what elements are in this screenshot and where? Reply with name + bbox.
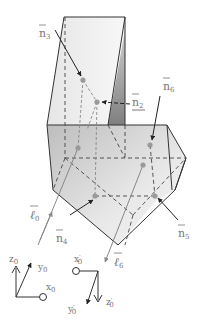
output-frame: x′0 y′0 z′0 <box>67 254 114 316</box>
label-n4: n4 <box>56 230 68 246</box>
svg-text:n2: n2 <box>132 96 144 110</box>
svg-text:z′0: z′0 <box>106 297 114 309</box>
x0-axis-icon <box>40 294 47 301</box>
lower-block <box>47 125 186 245</box>
label-n2: n2 <box>132 94 145 110</box>
svg-text:x0: x0 <box>46 282 56 294</box>
svg-text:x′0: x′0 <box>74 254 82 266</box>
svg-text:n6: n6 <box>163 80 175 94</box>
svg-text:n3: n3 <box>39 27 51 41</box>
x0-prime-axis-icon <box>73 268 80 275</box>
svg-text:n5: n5 <box>178 227 190 241</box>
normal-n5 <box>158 198 178 220</box>
prism-ray-diagram: n3 n2 n6 n4 n5 ℓ0 ℓ6 <box>0 0 202 332</box>
label-n3: n3 <box>39 25 51 41</box>
svg-text:y′0: y′0 <box>67 304 76 316</box>
upper-prism <box>47 17 125 125</box>
svg-text:z0: z0 <box>9 254 18 266</box>
svg-text:y0: y0 <box>37 262 48 274</box>
label-n5: n5 <box>178 225 190 241</box>
svg-text:ℓ0: ℓ0 <box>30 208 39 223</box>
input-frame: z0 y0 x0 <box>9 254 56 301</box>
label-n6: n6 <box>163 78 175 94</box>
svg-text:n4: n4 <box>56 232 68 246</box>
label-l6: ℓ6 <box>114 253 124 270</box>
label-l0: ℓ0 <box>30 206 39 223</box>
svg-text:ℓ6: ℓ6 <box>114 255 124 270</box>
